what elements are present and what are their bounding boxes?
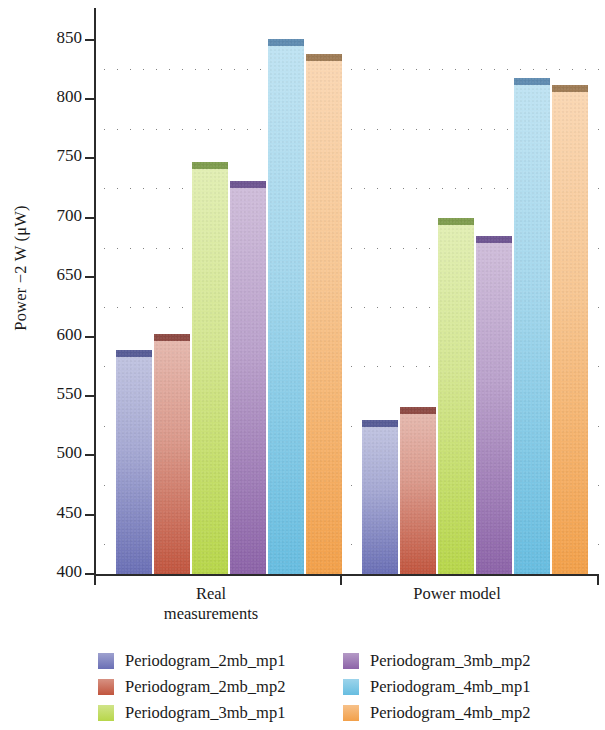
chart-figure: Power −2 W (μW) 400450500550600650700750… (0, 0, 605, 730)
x-axis-group-separator (340, 574, 342, 585)
x-category-label-0: Realmeasurements (111, 584, 311, 624)
bar-top-cap (230, 181, 266, 188)
legend-item[interactable]: Periodogram_3mb_mp1 (98, 700, 285, 726)
bar-top-cap (552, 85, 588, 92)
y-tick-label: 700 (22, 206, 82, 226)
legend-item[interactable]: Periodogram_2mb_mp2 (98, 674, 285, 700)
y-tick-label: 450 (22, 503, 82, 523)
y-tick-mark (85, 98, 96, 100)
bar (268, 39, 304, 574)
bar-body (268, 46, 304, 574)
bar (362, 420, 398, 574)
y-axis-line (94, 8, 96, 576)
x-category-label-1: Power model (357, 584, 557, 604)
x-category-label-line: measurements (111, 604, 311, 624)
bar-top-cap (192, 162, 228, 169)
bar-body (230, 188, 266, 574)
bar-body (154, 341, 190, 574)
bar (514, 78, 550, 574)
y-tick-label: 750 (22, 146, 82, 166)
x-axis-line (94, 574, 599, 576)
x-axis-end-tick (597, 574, 599, 585)
bar (192, 162, 228, 574)
bar-top-cap (438, 218, 474, 225)
legend-label: Periodogram_2mb_mp2 (125, 677, 285, 697)
y-tick-mark (85, 217, 96, 219)
bar-body (438, 225, 474, 574)
legend-swatch-icon (343, 705, 359, 721)
bar-body (476, 243, 512, 574)
legend-swatch-icon (343, 679, 359, 695)
y-tick-label: 400 (22, 562, 82, 582)
y-tick-label: 550 (22, 384, 82, 404)
legend-swatch-icon (98, 653, 114, 669)
bar (476, 236, 512, 574)
bar (552, 85, 588, 574)
y-tick-mark (85, 514, 96, 516)
y-tick-label: 800 (22, 87, 82, 107)
y-tick-label: 850 (22, 28, 82, 48)
legend-item[interactable]: Periodogram_2mb_mp1 (98, 648, 285, 674)
legend-label: Periodogram_4mb_mp2 (370, 703, 530, 723)
legend-item[interactable]: Periodogram_4mb_mp1 (343, 674, 530, 700)
legend-label: Periodogram_3mb_mp2 (370, 651, 530, 671)
x-category-label-line: Power model (357, 584, 557, 604)
y-tick-label: 600 (22, 325, 82, 345)
bar-top-cap (268, 39, 304, 46)
legend-swatch-icon (98, 705, 114, 721)
bar-top-cap (476, 236, 512, 243)
bar-top-cap (362, 420, 398, 427)
bar-body (552, 92, 588, 574)
bar (154, 334, 190, 574)
legend-item[interactable]: Periodogram_4mb_mp2 (343, 700, 530, 726)
bar-top-cap (116, 350, 152, 357)
legend-column-1: Periodogram_3mb_mp2Periodogram_4mb_mp1Pe… (343, 648, 530, 726)
chart-legend: Periodogram_2mb_mp1Periodogram_2mb_mp2Pe… (98, 648, 598, 728)
bar (438, 218, 474, 574)
bar-body (362, 427, 398, 574)
x-category-label-line: Real (111, 584, 311, 604)
bar (306, 54, 342, 574)
x-axis-end-tick (94, 574, 96, 585)
y-tick-mark (85, 39, 96, 41)
bar-top-cap (400, 407, 436, 414)
y-tick-mark (85, 336, 96, 338)
y-tick-mark (85, 157, 96, 159)
bar-body (306, 61, 342, 574)
legend-item[interactable]: Periodogram_3mb_mp2 (343, 648, 530, 674)
legend-column-0: Periodogram_2mb_mp1Periodogram_2mb_mp2Pe… (98, 648, 285, 726)
bar-top-cap (514, 78, 550, 85)
bar (230, 181, 266, 574)
legend-label: Periodogram_4mb_mp1 (370, 677, 530, 697)
y-tick-label: 650 (22, 265, 82, 285)
bar-body (514, 85, 550, 574)
legend-label: Periodogram_3mb_mp1 (125, 703, 285, 723)
bar-top-cap (154, 334, 190, 341)
gridline (96, 69, 599, 70)
bar-top-cap (306, 54, 342, 61)
bar-body (400, 414, 436, 574)
legend-swatch-icon (98, 679, 114, 695)
legend-label: Periodogram_2mb_mp1 (125, 651, 285, 671)
bar (116, 350, 152, 574)
bar-body (116, 357, 152, 574)
bar (400, 407, 436, 574)
y-tick-mark (85, 454, 96, 456)
y-tick-mark (85, 395, 96, 397)
y-tick-label: 500 (22, 443, 82, 463)
legend-swatch-icon (343, 653, 359, 669)
plot-area: 400450500550600650700750800850 (94, 8, 599, 576)
y-tick-mark (85, 276, 96, 278)
bar-body (192, 169, 228, 574)
